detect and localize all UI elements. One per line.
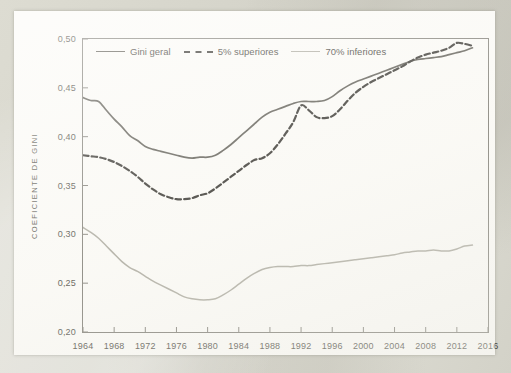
x-tick-label: 2008 (415, 341, 436, 351)
x-tick-label: 1968 (104, 341, 125, 351)
x-tick-label: 2012 (446, 341, 467, 351)
x-tick-label: 2004 (384, 341, 405, 351)
plot-area (82, 38, 489, 333)
x-tick-label: 2016 (478, 341, 499, 351)
x-tick-label: 1980 (197, 341, 218, 351)
y-tick-label: 0,50 (58, 34, 76, 44)
x-tick-label: 1964 (73, 341, 94, 351)
legend-item-5-superiores[interactable]: 5% superiores (184, 47, 279, 57)
series-lines (83, 39, 488, 332)
x-tick-label: 1996 (322, 341, 343, 351)
series-line-5-superiores (83, 43, 472, 200)
series-line-70-inferiores (83, 228, 472, 300)
x-tick-label: 1988 (260, 341, 281, 351)
legend: Gini geral 5% superiores 70% inferiores (96, 47, 386, 57)
x-tick-label: 2000 (353, 341, 374, 351)
y-tick-label: 0,25 (58, 278, 76, 288)
legend-swatch-solid-icon (96, 51, 125, 52)
printed-page: COEFICIENTE DE GINI 0,200,250,300,350,40… (14, 11, 495, 355)
legend-label-5-superiores: 5% superiores (218, 47, 279, 57)
y-tick-label: 0,30 (58, 229, 76, 239)
legend-item-70-inferiores[interactable]: 70% inferiores (291, 47, 386, 57)
series-line-gini-geral (83, 48, 472, 158)
y-axis-title: COEFICIENTE DE GINI (30, 133, 39, 239)
y-tick-label: 0,40 (58, 132, 76, 142)
y-tick-label: 0,35 (58, 181, 76, 191)
legend-item-gini-geral[interactable]: Gini geral (96, 47, 171, 57)
x-tick-label: 1976 (166, 341, 187, 351)
legend-swatch-gray-icon (291, 51, 320, 52)
figure-container: COEFICIENTE DE GINI 0,200,250,300,350,40… (0, 0, 511, 373)
x-tick-label: 1972 (135, 341, 156, 351)
x-tick-label: 1992 (291, 341, 312, 351)
y-tick-label: 0,20 (58, 327, 76, 337)
legend-label-gini-geral: Gini geral (130, 47, 171, 57)
x-tick-label: 1984 (228, 341, 249, 351)
legend-swatch-dashed-icon (184, 51, 213, 53)
legend-label-70-inferiores: 70% inferiores (325, 47, 386, 57)
y-tick-label: 0,45 (58, 83, 76, 93)
